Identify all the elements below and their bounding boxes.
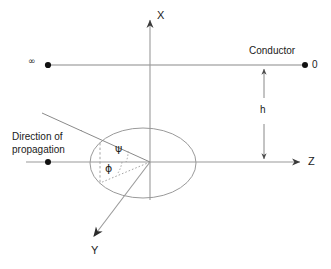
conductor-zero-label: 0	[312, 59, 318, 71]
propagation-label-line-1: Direction of	[12, 131, 63, 143]
propagation-origin-dot	[45, 159, 51, 165]
y-axis-line	[94, 162, 150, 236]
x-axis-label: X	[157, 9, 164, 22]
conductor-right-endpoint-dot	[302, 62, 308, 68]
infinity-label: ∞	[28, 56, 36, 66]
z-axis-label: Z	[308, 155, 315, 168]
propagation-label-line-2: propagation	[12, 144, 65, 156]
conductor-label: Conductor	[249, 45, 295, 57]
psi-angle-label: ψ	[115, 143, 122, 156]
phi-angle-label: ϕ	[105, 163, 112, 176]
y-axis-label: Y	[91, 244, 98, 257]
diagram-canvas: X Z Y ∞ Conductor 0 h Direction of propa…	[0, 0, 331, 269]
phi-angle-arc	[118, 162, 122, 173]
conductor-left-endpoint-dot	[45, 62, 51, 68]
height-label: h	[260, 104, 266, 116]
psi-angle-arc	[126, 151, 128, 162]
